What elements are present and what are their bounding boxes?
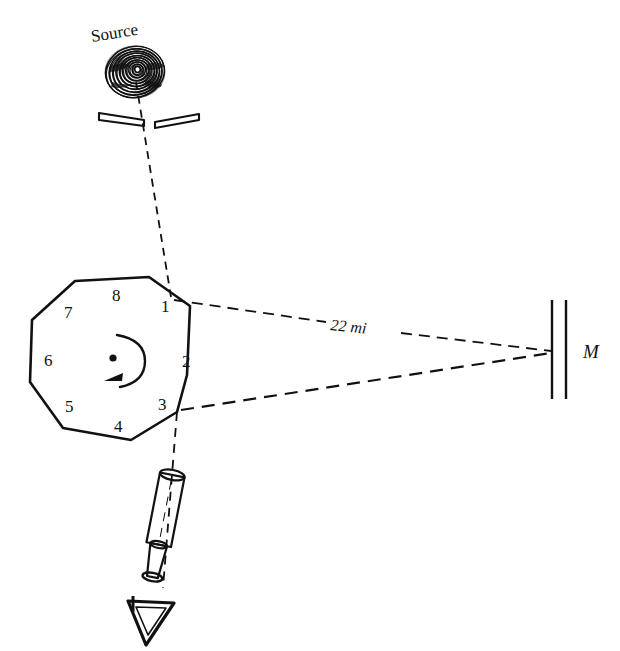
distance-label: 22 mi xyxy=(330,316,368,337)
slit-jaw-left xyxy=(99,113,144,126)
octagon-face-label-3: 3 xyxy=(158,395,167,414)
beam-octagon-to-mirror-left xyxy=(174,300,326,322)
octagon-face-numbers: 1 2 3 4 5 6 7 8 xyxy=(44,286,191,436)
incident-beam-path xyxy=(136,82,171,297)
octagon-face-label-2: 2 xyxy=(182,352,191,371)
octagon-face-label-5: 5 xyxy=(65,397,74,416)
octagon-face-label-6: 6 xyxy=(44,351,53,370)
observer-eye xyxy=(128,596,174,645)
slit-aperture xyxy=(99,113,199,128)
distant-fixed-mirror xyxy=(552,300,566,399)
beam-octagon-to-telescope xyxy=(163,412,177,588)
beam-mirror-to-octagon xyxy=(181,353,551,410)
octagon-face-label-7: 7 xyxy=(64,303,73,322)
long-baseline-beam xyxy=(174,300,551,410)
mirror-label: M xyxy=(582,341,600,362)
rotation-arrowhead xyxy=(104,373,123,381)
source-label: Source xyxy=(90,20,140,46)
observing-telescope xyxy=(139,468,185,584)
rotation-direction-arrow xyxy=(104,335,145,387)
slit-jaw-right xyxy=(155,114,199,128)
beam-octagon-to-mirror-right xyxy=(401,333,551,351)
telescope-barrel xyxy=(146,473,184,547)
octagon-face-label-8: 8 xyxy=(112,286,121,305)
octagon-face-label-4: 4 xyxy=(114,417,123,436)
michelson-rotating-mirror-diagram: Source 22 mi xyxy=(0,0,620,651)
light-source-spiral xyxy=(101,41,169,103)
figure-canvas: Source 22 mi xyxy=(0,0,620,651)
octagon-face-label-1: 1 xyxy=(161,297,170,316)
rotation-axis-dot xyxy=(109,354,116,361)
beam-source-to-octagon xyxy=(136,82,171,297)
